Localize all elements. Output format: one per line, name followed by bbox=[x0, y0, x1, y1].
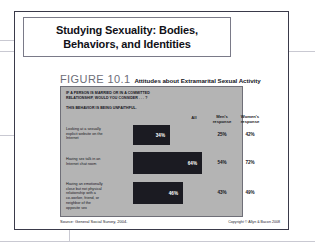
row-label-line: Internet chat room bbox=[66, 162, 124, 167]
bar-all: 46% bbox=[133, 182, 183, 204]
slide-title-line-2: Behaviors, and Identities bbox=[63, 37, 191, 51]
copyright-note: Copyright © Allyn & Bacon 2008 bbox=[228, 220, 280, 224]
row-label-line: Internet bbox=[66, 136, 124, 141]
chart-question: IF A PERSON IS MARRIED OR IN A COMMITTED… bbox=[66, 91, 191, 100]
slide-title-line-1: Studying Sexuality: Bodies, bbox=[56, 23, 198, 37]
response-men: 25% bbox=[209, 132, 235, 137]
column-header-all: All bbox=[181, 115, 207, 120]
chart-question-line-2: RELATIONSHIP, WOULD YOU CONSIDER . . . ? bbox=[66, 96, 191, 101]
guide-line-horizontal-bottom bbox=[0, 241, 315, 242]
bar-all: 34% bbox=[133, 125, 170, 145]
response-men: 43% bbox=[209, 190, 235, 195]
bar-all: 64% bbox=[133, 152, 202, 174]
column-header-women: Women's response bbox=[235, 114, 265, 124]
chart-statement: THIS BEHAVIOR IS BEING UNFAITHFUL. bbox=[66, 106, 137, 110]
slide-page: Studying Sexuality: Bodies, Behaviors, a… bbox=[0, 0, 315, 247]
bar-value: 34% bbox=[156, 133, 165, 138]
column-header-women-line-2: response bbox=[235, 119, 265, 124]
column-header-men: Men's response bbox=[209, 114, 235, 124]
bar-value: 64% bbox=[188, 161, 197, 166]
response-women: 49% bbox=[235, 190, 265, 195]
response-men: 54% bbox=[209, 160, 235, 165]
row-label: Having an emotionally close but not phys… bbox=[66, 182, 124, 210]
slide-frame: Studying Sexuality: Bodies, Behaviors, a… bbox=[14, 11, 289, 230]
source-note: Source: General Social Survey, 2004. bbox=[60, 219, 127, 224]
column-header-men-line-2: response bbox=[209, 119, 235, 124]
chart-panel: IF A PERSON IS MARRIED OR IN A COMMITTED… bbox=[60, 86, 243, 217]
response-women: 72% bbox=[235, 160, 265, 165]
row-label-line: opposite sex bbox=[66, 206, 124, 211]
figure-number: FIGURE 10.1 bbox=[60, 73, 130, 85]
figure-title: Attitudes about Extramarital Sexual Acti… bbox=[134, 77, 260, 84]
slide-title-box: Studying Sexuality: Bodies, Behaviors, a… bbox=[23, 17, 231, 57]
figure-caption: FIGURE 10.1 Attitudes about Extramarital… bbox=[60, 73, 261, 85]
bar-value: 46% bbox=[169, 191, 178, 196]
response-women: 42% bbox=[235, 132, 265, 137]
row-label: Having sex talk in an Internet chat room bbox=[66, 157, 124, 166]
row-label: Looking at a sexually explicit website o… bbox=[66, 127, 124, 141]
